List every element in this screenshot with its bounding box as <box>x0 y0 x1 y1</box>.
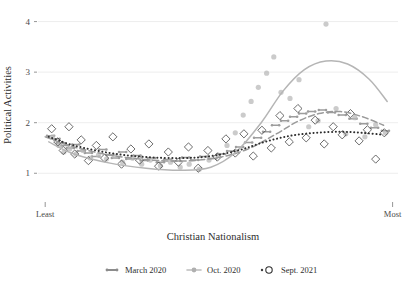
political-activities-scatter-chart: 1234 LeastMost Political Activities Chri… <box>0 0 410 287</box>
data-point <box>271 54 276 59</box>
chart-legend: March 2020Oct. 2020Sept. 2021 <box>106 265 318 275</box>
legend-label: Sept. 2021 <box>281 265 317 275</box>
data-point <box>323 22 328 27</box>
x-axis-title: Christian Nationalism <box>167 231 259 242</box>
legend-marker-dot2-icon <box>116 269 119 272</box>
y-axis-title: Political Activities <box>2 66 13 144</box>
data-point <box>249 99 254 104</box>
data-point <box>233 130 238 135</box>
data-point <box>241 113 246 118</box>
legend-label: Oct. 2020 <box>207 265 241 275</box>
data-point <box>287 96 292 101</box>
y-tick-label-4: 4 <box>26 17 31 27</box>
legend-label: March 2020 <box>125 265 166 275</box>
y-tick-label-3: 3 <box>26 67 31 77</box>
data-point <box>187 162 192 167</box>
data-point <box>178 165 183 170</box>
data-point <box>224 143 229 148</box>
data-point <box>264 71 269 76</box>
data-point <box>306 124 311 129</box>
legend-marker-dot-icon <box>261 269 263 271</box>
data-point <box>333 106 338 111</box>
x-end-label-least: Least <box>36 209 55 219</box>
y-tick-label-2: 2 <box>26 118 31 128</box>
y-tick-label-1: 1 <box>26 168 31 178</box>
data-point <box>256 85 261 90</box>
chart-figure: 1234 LeastMost Political Activities Chri… <box>0 0 410 287</box>
data-point <box>168 160 173 165</box>
legend-marker-dot-icon <box>106 269 109 272</box>
data-point <box>362 134 367 139</box>
legend-marker-circle-icon <box>192 268 197 273</box>
data-point <box>373 122 378 127</box>
data-point <box>296 77 301 82</box>
x-end-label-most: Most <box>384 209 402 219</box>
